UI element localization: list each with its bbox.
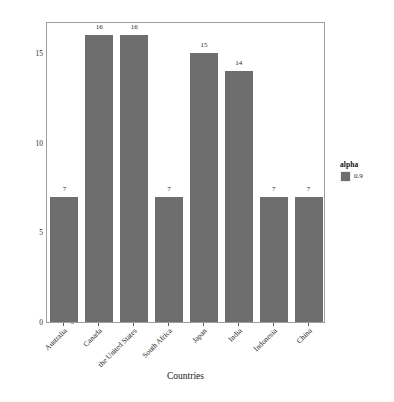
bar-group: 7 (256, 23, 291, 322)
x-tick-mark (308, 323, 309, 326)
bar (155, 197, 183, 322)
legend: alpha 0.9 (340, 161, 390, 182)
bar-value-label: 7 (47, 186, 82, 193)
bar-value-label: 14 (221, 60, 256, 67)
plot-panel: 716167151477 (46, 22, 325, 323)
x-axis-title: Countries (46, 371, 325, 381)
bar (225, 71, 253, 322)
bar-value-label: 16 (82, 24, 117, 31)
y-tick-label: 10 (28, 140, 43, 148)
y-tick-label: 5 (28, 230, 43, 238)
bar (260, 197, 288, 322)
legend-entry-label: 0.9 (354, 173, 363, 180)
bar (50, 197, 78, 322)
bar-group: 7 (47, 23, 82, 322)
x-tick-mark (203, 323, 204, 326)
bar-group: 15 (187, 23, 222, 322)
x-tick-mark (168, 323, 169, 326)
x-tick-mark (63, 323, 64, 326)
bar-value-label: 7 (291, 186, 326, 193)
x-tick-mark (98, 323, 99, 326)
y-tick-label: 0 (28, 319, 43, 327)
bar (120, 35, 148, 322)
chart-figure: Number of security summits 051015 716167… (0, 0, 394, 402)
bar-value-label: 7 (256, 186, 291, 193)
plot-area: 716167151477 (47, 23, 324, 322)
bar-group: 7 (152, 23, 187, 322)
x-tick-mark (133, 323, 134, 326)
x-tick-mark (273, 323, 274, 326)
bar-value-label: 16 (117, 24, 152, 31)
bar-value-label: 15 (187, 42, 222, 49)
bar-group: 16 (117, 23, 152, 322)
legend-swatch (340, 171, 351, 182)
legend-title: alpha (340, 161, 390, 169)
x-tick-mark (238, 323, 239, 326)
bar (85, 35, 113, 322)
bar-group: 14 (221, 23, 256, 322)
y-tick-label: 15 (28, 51, 43, 59)
y-axis: 051015 (28, 22, 43, 323)
bar-group: 7 (291, 23, 326, 322)
bar-series: 716167151477 (47, 23, 324, 322)
legend-entries: 0.9 (340, 171, 390, 182)
x-axis-labels: AustraliaCanadathe United StatesSouth Af… (46, 327, 325, 367)
bar (295, 197, 323, 322)
bar (190, 53, 218, 322)
bar-group: 16 (82, 23, 117, 322)
bar-value-label: 7 (152, 186, 187, 193)
legend-entry: 0.9 (340, 171, 390, 182)
